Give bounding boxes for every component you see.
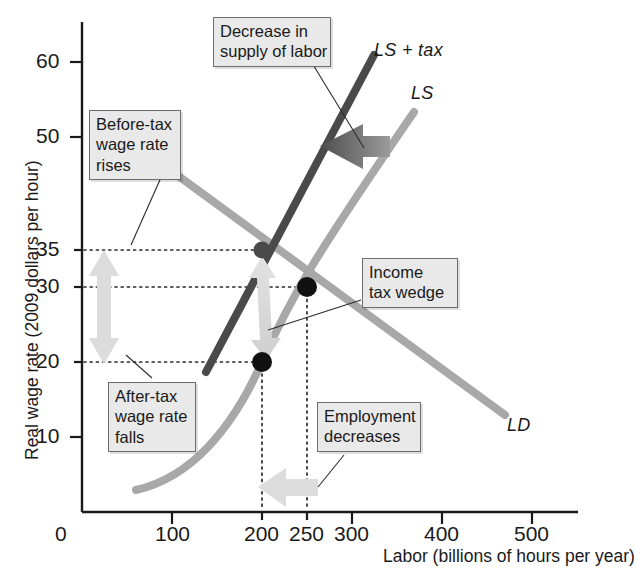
marker-before-tax (254, 242, 271, 259)
callout-employment-line1: Employment (324, 406, 414, 426)
callout-before-tax-rises: Before-tax wage rate rises (89, 110, 181, 180)
x-tick-300: 300 (334, 522, 369, 546)
callout-employment-decreases: Employment decreases (317, 402, 421, 452)
x-axis-title: Labor (billions of hours per year) (383, 546, 635, 567)
callout-after-tax-line3: falls (115, 427, 189, 447)
y-tick-50: 50 (36, 124, 59, 148)
x-tick-250: 250 (289, 522, 324, 546)
tax-wedge-double-arrow (249, 256, 281, 360)
x-tick-400: 400 (424, 522, 459, 546)
callout-after-tax-line2: wage rate (115, 406, 189, 426)
wage-change-double-arrow (89, 250, 119, 364)
x-tick-200: 200 (244, 522, 279, 546)
dotted-guides (84, 250, 307, 510)
curve-label-ld: LD (507, 415, 531, 436)
callout-decrease-supply-line2: supply of labor (220, 41, 324, 61)
x-tick-500: 500 (514, 522, 549, 546)
x-tick-0: 0 (55, 522, 67, 546)
callout-income-tax-wedge: Income tax wedge (362, 258, 458, 308)
y-tick-60: 60 (36, 49, 59, 73)
callout-before-tax-line2: wage rate (96, 134, 174, 154)
leader-decrease-supply (312, 63, 364, 148)
marker-after-tax (252, 352, 272, 372)
x-tick-100: 100 (155, 522, 190, 546)
marker-no-tax (297, 277, 317, 297)
curve-label-ls: LS (411, 83, 434, 104)
callout-before-tax-line3: rises (96, 155, 174, 175)
y-axis-title: Real wage rate (2009 dollars per hour) (22, 160, 43, 460)
callout-decrease-supply: Decrease in supply of labor (213, 17, 331, 67)
callout-after-tax-falls: After-tax wage rate falls (108, 382, 196, 452)
leader-employment (318, 455, 344, 487)
callout-before-tax-line1: Before-tax (96, 114, 174, 134)
callout-employment-line2: decreases (324, 426, 414, 446)
leader-before-tax (131, 173, 163, 245)
callout-income-wedge-line2: tax wedge (369, 282, 451, 302)
callout-decrease-supply-line1: Decrease in (220, 21, 324, 41)
employment-decrease-arrow (258, 468, 318, 507)
curve-label-ls-plus-tax: LS + tax (374, 40, 443, 61)
callout-after-tax-line1: After-tax (115, 386, 189, 406)
callout-income-wedge-line1: Income (369, 262, 451, 282)
y-axis-ticks (70, 62, 82, 437)
leader-after-tax (126, 355, 152, 378)
